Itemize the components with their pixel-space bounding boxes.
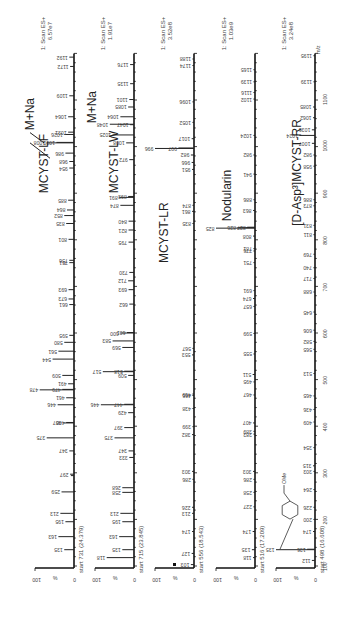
- peak-label: 135: [242, 547, 251, 553]
- peak-label: 553: [182, 352, 191, 358]
- peak-label: 513: [303, 371, 312, 377]
- peak-label: 163: [48, 534, 57, 540]
- peak-label: 1195: [301, 53, 312, 59]
- peak-label: 264: [303, 487, 312, 493]
- peak-label: 1109: [57, 93, 68, 99]
- peak-label: 874: [110, 203, 119, 209]
- peak-label: 286: [182, 477, 191, 483]
- start-label: start 516 (17.209): [259, 526, 265, 573]
- peak-label: 227: [243, 504, 252, 510]
- peak-label: 200: [303, 517, 312, 523]
- peak-label: 382: [182, 432, 191, 438]
- compound-name: [D-Asp³]MCYST-RR: [290, 119, 304, 226]
- peak-label: 136: [297, 547, 306, 553]
- peak-label: 135: [112, 547, 121, 553]
- peak-label: 561: [48, 349, 57, 355]
- peak-label: 518: [114, 369, 123, 375]
- peak-label: 397: [114, 425, 123, 431]
- peak-label: 399: [182, 424, 191, 430]
- peak-label: 968: [59, 159, 68, 165]
- peak-label: 601: [117, 330, 126, 336]
- peak-label: 835: [56, 221, 65, 227]
- peak-label: 213: [50, 511, 59, 517]
- peak-label: 465: [303, 393, 312, 399]
- peak-label: 375: [104, 435, 113, 441]
- y-axis-label: %: [294, 575, 299, 581]
- peak-label: 893: [118, 194, 127, 200]
- peak-label: 740: [303, 265, 312, 271]
- y-tick-100: 100: [152, 577, 161, 583]
- peak-label: 825: [206, 226, 215, 232]
- y-tick-100: 100: [273, 577, 282, 583]
- peak-label: 1102: [241, 97, 252, 103]
- peak-label: 118: [243, 555, 251, 561]
- compound-name: Nodularin: [220, 170, 234, 221]
- peak-label: 885: [58, 198, 67, 204]
- peak-label: 1139: [241, 79, 252, 85]
- peak-label: 1052: [179, 120, 191, 126]
- peak-label: 951: [182, 167, 191, 173]
- peak-label: 174: [303, 529, 312, 535]
- y-axis-label: %: [113, 575, 118, 581]
- x-tick-label: 100: [322, 562, 328, 571]
- peak-label: 347: [59, 448, 68, 454]
- peak-label: 795: [118, 240, 127, 246]
- peak-label: 429: [118, 410, 127, 416]
- peak-label: 831: [303, 223, 312, 229]
- peak-label: 407: [243, 420, 252, 426]
- peak-label: 982: [303, 152, 312, 158]
- peak-label: 1085: [300, 104, 312, 110]
- peak-label: 303: [243, 469, 252, 475]
- peak-label: 1085: [115, 104, 127, 110]
- peak-label: 1176: [117, 62, 128, 68]
- marker-square: [173, 563, 176, 566]
- peak-label: 996: [145, 146, 154, 152]
- peak-label: 163: [109, 534, 118, 540]
- y-tick-100: 100: [92, 577, 101, 583]
- peak-label: 599: [243, 331, 252, 337]
- peak-label: 1139: [301, 79, 312, 85]
- peak-label: 375: [36, 435, 45, 441]
- intensity-label: 6.57e7: [47, 21, 53, 40]
- peak-label: 606: [303, 328, 312, 334]
- peak-label: 268: [112, 485, 121, 491]
- compound-name: MCYST-LW: [107, 130, 121, 193]
- peak-label: 982: [181, 152, 190, 158]
- peak-label: 673: [58, 296, 67, 302]
- peak-label: 447: [114, 402, 123, 408]
- y-tick-0: 0: [254, 577, 257, 583]
- peak-label: 811: [304, 232, 312, 238]
- start-label: start 556 (18.543): [198, 526, 204, 573]
- x-tick-label: 500: [322, 376, 328, 385]
- peak-label: 874: [182, 203, 191, 209]
- x-tick-label: 900: [322, 189, 328, 198]
- peak-label: 891: [109, 195, 118, 201]
- spectrum-panel-nodularin: 0100%start 516 (17.209)1: Scan ES+1.03e9…: [206, 16, 265, 583]
- y-tick-100: 100: [213, 577, 222, 583]
- peak-label: 195: [55, 519, 64, 525]
- peak-label: 1064: [55, 114, 67, 120]
- peak-label: 118: [97, 555, 105, 561]
- peak-label: 693: [58, 287, 67, 293]
- peak-label: 751: [243, 260, 252, 266]
- peak-label: 769: [303, 252, 312, 258]
- peak-label: 1192: [57, 55, 68, 61]
- peak-label: 565: [303, 347, 312, 353]
- adduct-label-m-na: M+Na: [23, 98, 37, 131]
- peak-label: 174: [182, 529, 191, 535]
- peak-label: 986: [55, 151, 64, 157]
- peak-label: 226: [303, 505, 312, 511]
- peak-label: 213: [110, 511, 119, 517]
- intensity-label: 3.52e8: [167, 21, 173, 40]
- peak-label: 517: [93, 369, 102, 375]
- peak-label: 491: [58, 381, 67, 387]
- peak-label: 808: [243, 234, 252, 240]
- x-tick-label: 700: [322, 283, 328, 292]
- peak-label: 730: [119, 270, 128, 276]
- mass-spectra-figure: 0100%start 731 (24.379)1: Scan ES+6.57e7…: [0, 0, 343, 628]
- y-axis-label: %: [234, 575, 239, 581]
- y-tick-0: 0: [133, 577, 136, 583]
- scan-label: 1: Scan ES+: [100, 16, 106, 50]
- peak-label: 840: [118, 219, 127, 225]
- y-tick-0: 0: [314, 577, 317, 583]
